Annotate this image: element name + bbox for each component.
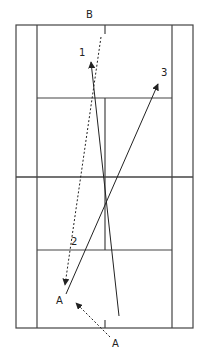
player-a-net-label: A <box>56 296 63 306</box>
player-a-start-label: A <box>112 339 119 349</box>
shot-2-label: 2 <box>71 237 77 247</box>
shot-1-label: 1 <box>79 48 85 58</box>
tennis-court-diagram <box>0 0 204 360</box>
player-b-label: B <box>86 10 93 20</box>
shot-3-label: 3 <box>161 68 167 78</box>
shot-arrows <box>65 37 158 337</box>
shot-3-arrow <box>66 84 158 294</box>
shot-2-arrow <box>65 37 101 285</box>
